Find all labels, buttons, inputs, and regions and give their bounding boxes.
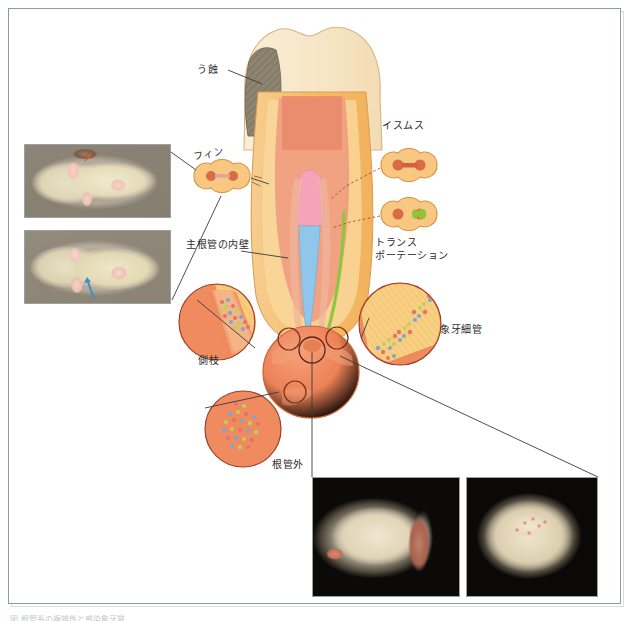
apical-foramen bbox=[303, 340, 321, 352]
photo2-arrow-overlay bbox=[25, 231, 171, 304]
fin-inset bbox=[194, 160, 250, 193]
label-lateral-branch: 側枝 bbox=[198, 355, 219, 367]
label-caries: う蝕 bbox=[197, 64, 218, 76]
label-main-canal-wall: 主根管の内壁 bbox=[186, 239, 249, 251]
photo-tooth-cross-section-upper bbox=[24, 144, 171, 218]
periapical-lesion bbox=[263, 326, 359, 418]
label-outside-canal: 根管外 bbox=[272, 459, 304, 471]
figure-caption-cropped: 図 根管系の複雑性と感染象牙質 bbox=[10, 613, 310, 621]
dentinal-tubule-inset bbox=[355, 282, 448, 372]
outside-canal-inset bbox=[205, 391, 281, 467]
photo-tooth-cross-section-lower bbox=[24, 230, 171, 304]
photo-tooth-specimen-occlusal bbox=[466, 477, 598, 597]
label-isthmus: イスムス bbox=[382, 120, 424, 132]
photo1-overlay bbox=[25, 145, 171, 218]
label-transportation: トランス ポーテーション bbox=[375, 236, 449, 262]
isthmus-inset bbox=[381, 149, 437, 182]
lateral-branch-inset bbox=[179, 284, 262, 360]
pulp-horn-region bbox=[282, 96, 342, 150]
label-dentinal-tubule: 象牙細管 bbox=[440, 324, 482, 336]
canal-pink-segment bbox=[297, 170, 324, 226]
transportation-inset bbox=[381, 198, 437, 231]
figure-page: う蝕 フィン 主根管の内壁 イスムス トランス ポーテーション 側枝 象牙細管 … bbox=[0, 0, 638, 621]
photo-tooth-specimen-side bbox=[312, 477, 460, 597]
